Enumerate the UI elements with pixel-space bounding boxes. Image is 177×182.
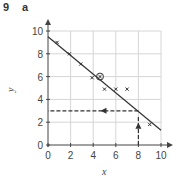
x-tick-label: 4: [90, 150, 96, 161]
axes: [45, 19, 173, 148]
y-tick-label: 4: [37, 94, 43, 105]
y-tick-label: 2: [37, 117, 43, 128]
arrow-left-icon: [101, 108, 107, 114]
y-axis-label: y: [5, 87, 16, 93]
y-tick-label: 6: [37, 72, 43, 83]
x-tick-label: 8: [136, 150, 142, 161]
grid-lines: [48, 31, 161, 145]
x-axis-arrow-icon: [167, 142, 173, 148]
x-tick-label: 2: [68, 150, 74, 161]
line-of-best-fit: [48, 37, 161, 130]
x-tick-label: 6: [113, 150, 119, 161]
y-tick-label: 8: [37, 49, 43, 60]
x-axis-label: x: [101, 166, 107, 177]
y-axis-arrow-icon: [45, 19, 51, 25]
best-fit-line: [48, 37, 161, 130]
y-tick-label: 0: [37, 140, 43, 151]
dashed-annotations: [48, 108, 141, 145]
arrow-up-icon: [135, 123, 141, 129]
x-tick-label: 0: [45, 150, 51, 161]
x-tick-label: 10: [155, 150, 167, 161]
tick-labels: 02468100246810: [32, 26, 167, 161]
scatter-chart: 02468100246810 x y: [0, 0, 177, 182]
y-tick-label: 10: [32, 26, 44, 37]
